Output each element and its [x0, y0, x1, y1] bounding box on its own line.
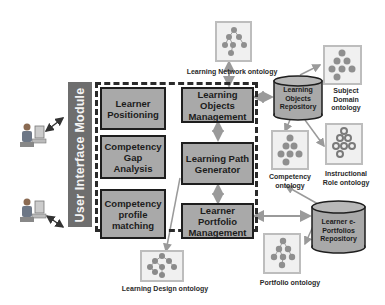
competency-ontology-icon	[271, 130, 309, 170]
module-learning-objects-management: Learning Objects Management	[181, 87, 254, 123]
module-label: Learner Portfolio Management	[185, 205, 250, 238]
portfolio-ontology-label: Portfolio ontology	[250, 279, 330, 288]
module-competency-gap-analysis: Competency Gap Analysis	[100, 135, 166, 179]
user-interface-module: User Interface Module	[68, 82, 92, 227]
module-learning-path-generator: Learning Path Generator	[181, 142, 254, 185]
competency-ontology-label: Competency ontology	[262, 173, 318, 190]
repository-label: Learning Objects Repository	[275, 86, 321, 112]
user-interface-module-label: User Interface Module	[73, 87, 87, 222]
learner-eportfolios-repository: Learner e-Portfolios Repository	[311, 200, 366, 254]
learning-network-ontology-icon	[215, 21, 252, 62]
repository-label: Learner e-Portfolios Repository	[314, 218, 363, 244]
learning-objects-repository: Learning Objects Repository	[273, 75, 323, 121]
portfolio-ontology-icon	[263, 233, 301, 274]
module-competency-profile-matching: Competency profile matching	[100, 189, 166, 239]
module-learner-positioning: Learner Positioning	[100, 87, 166, 130]
learning-design-ontology-label: Learning Design ontology	[110, 285, 220, 294]
instructional-role-ontology-icon	[325, 123, 363, 165]
learning-network-ontology-label: Learning Network ontology	[172, 68, 292, 77]
user-computer-icon-bottom	[18, 196, 48, 228]
user-computer-icon-top	[18, 121, 48, 153]
subject-domain-ontology-label: Subject Domain ontology	[326, 87, 366, 113]
subject-domain-ontology-icon	[323, 45, 362, 85]
module-label: Learner Positioning	[104, 98, 162, 120]
module-learner-portfolio-management: Learner Portfolio Management	[181, 203, 254, 239]
module-label: Competency Gap Analysis	[104, 141, 162, 174]
module-label: Competency profile matching	[104, 198, 162, 231]
instructional-role-ontology-label: Instructional Role ontology	[318, 170, 374, 187]
module-label: Learning Objects Management	[185, 89, 250, 122]
learning-design-ontology-icon	[140, 250, 184, 282]
module-label: Learning Path Generator	[185, 153, 250, 175]
